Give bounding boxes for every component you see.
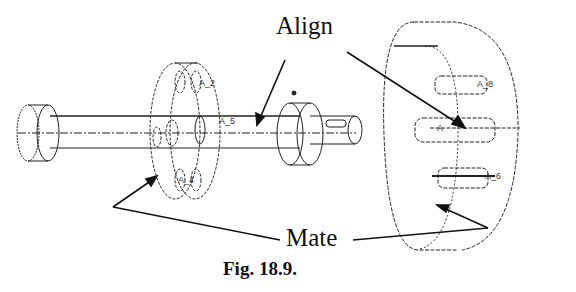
axis-label-a6: A_6 bbox=[485, 171, 501, 181]
large-housing bbox=[384, 22, 520, 250]
mate-callout: Mate bbox=[286, 224, 337, 252]
align-callout: Align bbox=[276, 12, 333, 40]
axis-label-a8: A_8 bbox=[477, 79, 493, 89]
axis-label-a1: A bbox=[437, 123, 443, 133]
shaft bbox=[50, 116, 300, 148]
callout-leaders bbox=[113, 52, 488, 240]
axis-label-a5: A_5 bbox=[219, 116, 235, 126]
axis-label-a4: A_4 bbox=[178, 175, 194, 185]
figure-caption: Fig. 18.9. bbox=[223, 258, 297, 280]
axis-label-a2: A_2 bbox=[199, 78, 215, 88]
hub-collar bbox=[277, 91, 362, 165]
